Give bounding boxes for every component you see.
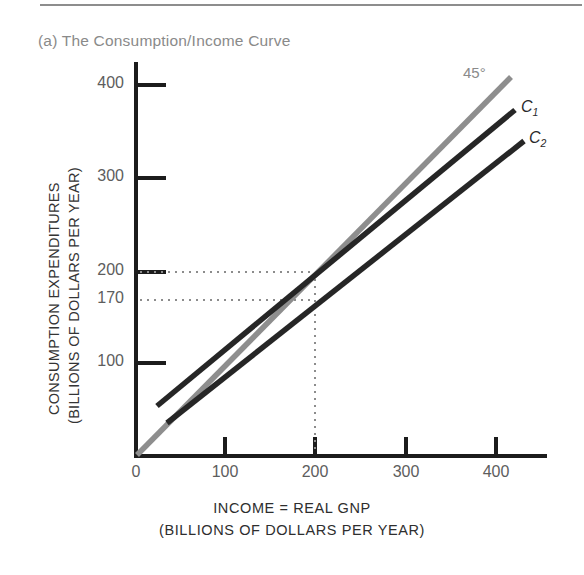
series-label-c1-subscript: 1 — [533, 106, 539, 118]
y-tick-label-200: 200 — [68, 261, 124, 279]
series-line-c2 — [167, 141, 524, 423]
y-tick-label-400: 400 — [68, 74, 124, 92]
series-label-c2-text: C — [529, 129, 541, 146]
series-line-c1 — [157, 110, 515, 406]
x-axis-title-line2: (BILLIONS OF DOLLARS PER YEAR) — [0, 522, 584, 538]
x-axis-title-line1: INCOME = REAL GNP — [0, 500, 584, 516]
y-tick-label-300: 300 — [68, 167, 124, 185]
figure-panel: (a) The Consumption/Income Curve CONSUMP… — [0, 0, 584, 575]
x-tick-label-200: 200 — [290, 463, 340, 481]
x-tick-label-400: 400 — [471, 463, 521, 481]
series-label-c1-text: C — [521, 98, 533, 115]
series-label-c2-subscript: 2 — [541, 137, 547, 149]
y-tick-label-170: 170 — [68, 289, 124, 307]
x-tick-label-0: 0 — [111, 463, 161, 481]
x-tick-label-100: 100 — [200, 463, 250, 481]
y-tick-label-100: 100 — [68, 352, 124, 370]
series-label-c1: C1 — [521, 98, 538, 118]
series-label-c2: C2 — [529, 129, 546, 149]
x-tick-label-300: 300 — [381, 463, 431, 481]
series-label-45-degree: 45° — [463, 64, 486, 81]
